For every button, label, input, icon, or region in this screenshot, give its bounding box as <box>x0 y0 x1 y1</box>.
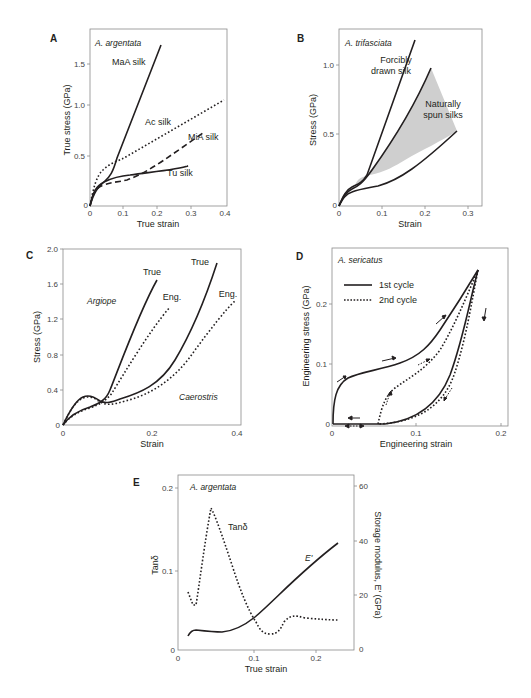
panel-c: C 2.0 1.6 1.2 0.8 0.4 0 0 0.2 0.4 Strain… <box>26 245 243 449</box>
species-title: A. argentata <box>189 482 237 492</box>
label-caerostris: Caerostris <box>179 392 218 402</box>
curve-caerostris-eng <box>63 301 235 425</box>
legend-label-1st-cycle: 1st cycle <box>379 280 414 290</box>
curve-ac-silk <box>90 100 224 206</box>
panel-b: B A. trifasciata 1.0 0.5 0 0 0.1 0.2 0.3… <box>297 29 482 229</box>
plot-frame <box>332 248 508 426</box>
panel-letter: D <box>296 251 303 262</box>
y-tick-label: 0.2 <box>316 300 328 309</box>
x-tick-label: 0.2 <box>146 429 158 438</box>
y-axis-label: Stress (GPa) <box>32 311 42 363</box>
label-argiope-eng: Eng. <box>163 292 182 302</box>
x-tick-label: 0.4 <box>219 209 231 218</box>
label-ac-silk: Ac silk <box>145 117 172 127</box>
y-tick-label: 1.6 <box>47 280 59 289</box>
panel-letter: A <box>50 33 57 44</box>
label-naturally-spun-line2: spun silks <box>423 110 463 120</box>
y-axis: 1.0 0.5 0 <box>323 61 339 210</box>
label-mia-silk: MiA silk <box>188 132 219 142</box>
legend: 1st cycle 2nd cycle <box>344 280 417 305</box>
x-tick-label: 0.3 <box>185 209 197 218</box>
y-tick-label: 2.0 <box>47 245 59 254</box>
label-argiope: Argiope <box>86 296 117 306</box>
label-naturally-spun-line1: Naturally <box>425 99 461 109</box>
species-title: A. trifasciata <box>344 38 392 48</box>
panel-letter: C <box>26 250 33 261</box>
label-tan-delta: Tanδ <box>228 522 248 532</box>
x-axis: 0 0.2 0.4 <box>61 429 243 438</box>
x-axis-label: True strain <box>137 219 180 229</box>
label-caerostris-true: True <box>191 257 209 267</box>
x-tick-label: 0.3 <box>462 209 474 218</box>
y-tick-label: 0.1 <box>316 360 328 369</box>
x-tick-label: 0 <box>176 654 181 663</box>
y-tick-label: 0.5 <box>74 152 86 161</box>
label-forcibly-drawn-line2: drawn silk <box>371 66 412 76</box>
x-axis-label: Engineering strain <box>380 439 453 449</box>
y-right-tick-label: 40 <box>359 537 368 546</box>
curve-1st-cycle-loading <box>333 270 478 424</box>
x-axis: 0 0.1 0.2 <box>330 423 507 438</box>
y-axis: 0.2 0.1 0 <box>316 300 332 429</box>
x-axis-label: Strain <box>140 439 164 449</box>
species-title: A. argentata <box>94 38 142 48</box>
x-tick-label: 0 <box>61 429 66 438</box>
curve-argiope-eng <box>63 307 170 425</box>
x-tick-label: 0.2 <box>419 209 431 218</box>
label-tu-silk: Tu silk <box>167 168 193 178</box>
x-tick-label: 0.1 <box>248 654 260 663</box>
y-tick-label: 0.8 <box>47 351 59 360</box>
y-tick-label: 0.2 <box>162 484 174 493</box>
figure-canvas: A A. argentata 1.5 1.0 0.5 0 0 0.1 0.2 0… <box>0 0 531 698</box>
naturally-spun-shaded-region <box>355 68 457 186</box>
x-tick-label: 0 <box>337 209 342 218</box>
x-tick-label: 0.2 <box>151 209 163 218</box>
x-axis-label: Strain <box>398 219 422 229</box>
curve-1st-cycle-unloading <box>333 270 478 424</box>
panel-d: D A. sericatus 1st cycle 2nd cycle 0.2 0… <box>296 248 508 449</box>
y-tick-label: 1.0 <box>323 61 335 70</box>
x-axis: 0 0.1 0.2 0.3 <box>337 206 474 218</box>
y-right-tick-label: 60 <box>359 482 368 491</box>
x-tick-label: 0.4 <box>231 429 243 438</box>
curve-tan-delta <box>188 508 338 634</box>
x-tick-label: 0.1 <box>376 209 388 218</box>
label-forcibly-drawn-line1: Forcibly <box>380 55 412 65</box>
x-tick-label: 0.2 <box>310 654 322 663</box>
x-axis: 0 0.1 0.2 0.3 0.4 <box>88 206 231 218</box>
y-right-tick-label: 20 <box>359 591 368 600</box>
x-tick-label: 0.1 <box>117 209 129 218</box>
y-tick-label: 0.1 <box>162 567 174 576</box>
x-axis: 0 0.1 0.2 <box>176 650 322 663</box>
y-tick-label: 0.4 <box>47 386 59 395</box>
label-argiope-true: True <box>143 267 161 277</box>
y-axis-label-right: Storage modulus, E' (GPa) <box>373 511 383 618</box>
x-tick-label: 0.2 <box>495 429 507 438</box>
panel-letter: E <box>133 477 140 488</box>
legend-label-2nd-cycle: 2nd cycle <box>379 295 417 305</box>
y-axis-left: 0.2 0.1 0 <box>162 484 178 655</box>
y-right-tick-label: 0 <box>359 645 364 654</box>
panel-letter: B <box>297 33 304 44</box>
y-axis-label: Stress (GPa) <box>308 94 318 146</box>
y-axis: 1.5 1.0 0.5 0 <box>74 60 90 210</box>
species-title: A. sericatus <box>337 255 383 265</box>
y-tick-label: 1.2 <box>47 315 59 324</box>
x-axis-label: True strain <box>245 664 288 674</box>
y-tick-label: 0 <box>326 420 331 429</box>
x-tick-label: 0.1 <box>410 429 422 438</box>
y-axis: 2.0 1.6 1.2 0.8 0.4 0 <box>47 245 63 430</box>
x-tick-label: 0 <box>88 209 93 218</box>
label-caerostris-eng: Eng. <box>219 289 238 299</box>
panel-e: E A. argentata 0.2 0.1 0 60 40 20 0 0 0.… <box>133 475 383 674</box>
plot-frame <box>178 475 354 650</box>
y-tick-label: 0.5 <box>323 130 335 139</box>
x-tick-label: 0 <box>330 429 335 438</box>
panel-a: A A. argentata 1.5 1.0 0.5 0 0 0.1 0.2 0… <box>50 29 231 229</box>
y-axis-label: True stress (GPa) <box>62 84 72 155</box>
y-tick-label: 1.0 <box>74 101 86 110</box>
y-axis-right: 60 40 20 0 <box>354 482 368 654</box>
y-axis-label: Engineering stress (GPa) <box>301 285 311 386</box>
curve-storage-modulus <box>188 543 338 636</box>
label-maa-silk: MaA silk <box>112 57 146 67</box>
